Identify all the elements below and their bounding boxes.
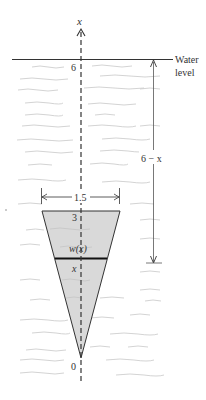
water-label-line2: level	[175, 67, 195, 78]
axis-label: x	[76, 15, 82, 27]
depth-label: 6 − x	[141, 153, 162, 164]
strip-position-label: x	[71, 263, 77, 274]
strip-width-label: w(x)	[69, 243, 87, 255]
top-value: 3	[72, 212, 77, 223]
submerged-plate-diagram: x 6 Water level 6 − x 1.5 3 w(x) x 0	[0, 0, 206, 400]
width-top-label: 1.5	[74, 192, 87, 203]
bottom-value: 0	[71, 361, 76, 372]
water-label-line1: Water	[175, 54, 199, 65]
water-level-value: 6	[71, 62, 76, 73]
